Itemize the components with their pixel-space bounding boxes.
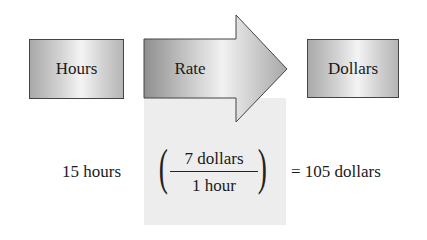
fraction-bar xyxy=(170,171,258,172)
dollars-box: Dollars xyxy=(307,39,399,98)
fraction-denominator: 1 hour xyxy=(170,176,258,196)
rate-label: Rate xyxy=(174,59,205,79)
fraction-numerator: 7 dollars xyxy=(170,149,258,169)
equation-given: 15 hours xyxy=(62,163,121,180)
rate-label-container: Rate xyxy=(144,39,236,98)
dollars-label: Dollars xyxy=(328,59,378,79)
equation-result: = 105 dollars xyxy=(291,163,381,180)
left-paren: ( xyxy=(159,142,168,192)
right-paren: ) xyxy=(258,142,267,192)
